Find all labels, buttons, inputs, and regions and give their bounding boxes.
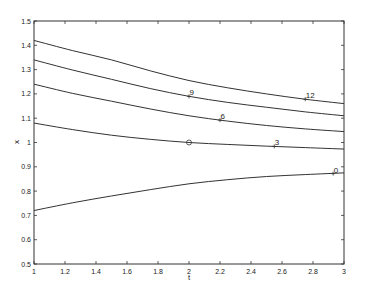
curves — [34, 40, 344, 210]
y-tick-label: 0.6 — [21, 236, 31, 243]
x-tick-label: 2.6 — [277, 268, 287, 275]
x-tick-label: 2.8 — [308, 268, 318, 275]
svg-text:9: 9 — [190, 88, 195, 97]
y-tick-label: 0.8 — [21, 188, 31, 195]
curve-label-0: 0 — [331, 166, 339, 176]
y-tick-label: 1.2 — [21, 90, 31, 97]
x-tick-label: 1.2 — [60, 268, 70, 275]
svg-text:3: 3 — [275, 138, 280, 147]
x-tick-label: 2.2 — [215, 268, 225, 275]
y-tick-label: 0.7 — [21, 212, 31, 219]
curve-label-12: 12 — [303, 91, 315, 101]
curve-label-6: 6 — [218, 112, 226, 122]
y-tick-label: 0.9 — [21, 163, 31, 170]
svg-text:0: 0 — [334, 166, 339, 175]
svg-text:12: 12 — [306, 91, 315, 100]
x-axis: 11.21.41.61.822.22.42.62.83 — [32, 21, 346, 275]
curve-labels: 129630 — [187, 88, 339, 175]
curve-label-9: 9 — [187, 88, 195, 98]
svg-text:6: 6 — [221, 112, 226, 121]
y-tick-label: 0.5 — [21, 261, 31, 268]
y-axis-label: x — [12, 140, 21, 144]
curve-0 — [34, 173, 344, 211]
line-chart: 129630 11.21.41.61.822.22.42.62.83 0.50.… — [0, 0, 367, 300]
x-tick-label: 1.8 — [153, 268, 163, 275]
y-tick-label: 1.5 — [21, 18, 31, 25]
x-tick-label: 1.6 — [122, 268, 132, 275]
y-tick-label: 1.1 — [21, 115, 31, 122]
y-tick-label: 1 — [27, 139, 31, 146]
x-tick-label: 2.4 — [246, 268, 256, 275]
x-tick-label: 3 — [342, 268, 346, 275]
x-tick-label: 1 — [32, 268, 36, 275]
y-tick-label: 1.3 — [21, 66, 31, 73]
x-tick-label: 1.4 — [91, 268, 101, 275]
y-tick-label: 1.4 — [21, 42, 31, 49]
